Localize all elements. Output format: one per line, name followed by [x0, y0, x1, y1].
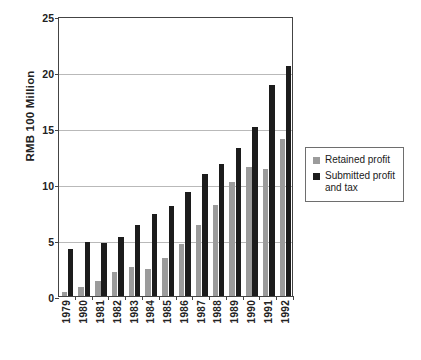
legend-item-submitted-profit-and-tax: Submitted profit and tax — [313, 170, 397, 194]
y-axis-tick-label: 20 — [42, 68, 54, 80]
legend-item-retained-profit: Retained profit — [313, 154, 397, 166]
bar-1980-retained-profit — [78, 287, 83, 296]
x-axis-label-1992: 1992 — [280, 300, 291, 323]
y-axis-tick-label: 10 — [42, 180, 54, 192]
plot-area: 0510152025 — [58, 17, 293, 297]
y-axis-title: RMB 100 Million — [24, 26, 36, 206]
bar-1983-submitted-profit-and-tax — [135, 225, 140, 296]
x-axis-label-1982: 1982 — [112, 300, 123, 323]
bar-chart: RMB 100 Million 0510152025 1979198019811… — [0, 0, 421, 360]
bar-1988-submitted-profit-and-tax — [219, 164, 224, 296]
x-axis-tick-mark — [108, 296, 109, 300]
bar-1989-submitted-profit-and-tax — [236, 148, 241, 296]
legend-swatch-icon-submitted — [313, 173, 320, 180]
x-axis-label-1988: 1988 — [212, 300, 223, 323]
x-axis-tick-mark — [293, 296, 294, 300]
bar-1992-retained-profit — [280, 139, 285, 296]
bar-1985-submitted-profit-and-tax — [169, 206, 174, 296]
bar-1982-retained-profit — [112, 272, 117, 296]
x-axis-label-1983: 1983 — [129, 300, 140, 323]
x-axis-tick-mark — [192, 296, 193, 300]
bar-1984-submitted-profit-and-tax — [152, 214, 157, 296]
x-axis-label-1989: 1989 — [229, 300, 240, 323]
bar-1990-submitted-profit-and-tax — [252, 127, 257, 296]
x-axis-label-1985: 1985 — [162, 300, 173, 323]
x-axis-tick-mark — [159, 296, 160, 300]
bar-1990-retained-profit — [246, 167, 251, 296]
bar-1980-submitted-profit-and-tax — [85, 242, 90, 296]
x-axis-tick-mark — [209, 296, 210, 300]
legend-label-retained: Retained profit — [325, 154, 390, 166]
x-axis-label-1979: 1979 — [61, 300, 72, 323]
legend-swatch-icon-retained — [313, 157, 320, 164]
bar-1987-retained-profit — [196, 225, 201, 296]
bars-layer — [59, 18, 292, 296]
bar-1991-retained-profit — [263, 169, 268, 296]
bar-1986-submitted-profit-and-tax — [185, 192, 190, 296]
x-axis-label-1990: 1990 — [246, 300, 257, 323]
x-axis-label-1984: 1984 — [145, 300, 156, 323]
legend-label-submitted: Submitted profit and tax — [325, 170, 397, 194]
x-axis-tick-mark — [125, 296, 126, 300]
x-axis-tick-mark — [176, 296, 177, 300]
x-axis-tick-mark — [259, 296, 260, 300]
bar-1985-retained-profit — [162, 258, 167, 296]
x-axis-tick-mark — [243, 296, 244, 300]
chart-legend: Retained profit Submitted profit and tax — [305, 147, 404, 202]
bar-1987-submitted-profit-and-tax — [202, 174, 207, 296]
x-axis-tick-mark — [226, 296, 227, 300]
x-axis-tick-mark — [276, 296, 277, 300]
x-axis-tick-mark — [142, 296, 143, 300]
x-axis-tick-mark — [75, 296, 76, 300]
x-axis-label-1991: 1991 — [263, 300, 274, 323]
x-axis-label-1981: 1981 — [95, 300, 106, 323]
y-axis-tick-mark — [55, 298, 59, 299]
x-axis-labels: 1979198019811982198319841985198619871988… — [58, 300, 293, 358]
x-axis-label-1980: 1980 — [78, 300, 89, 323]
bar-1991-submitted-profit-and-tax — [269, 85, 274, 296]
y-axis-tick-label: 5 — [48, 236, 54, 248]
bar-1981-submitted-profit-and-tax — [101, 243, 106, 296]
y-axis-tick-label: 15 — [42, 124, 54, 136]
bar-1986-retained-profit — [179, 244, 184, 296]
x-axis-label-1987: 1987 — [196, 300, 207, 323]
y-axis-tick-label: 25 — [42, 12, 54, 24]
bar-1982-submitted-profit-and-tax — [118, 237, 123, 296]
y-axis-tick-label: 0 — [48, 292, 54, 304]
x-axis-label-1986: 1986 — [179, 300, 190, 323]
bar-1981-retained-profit — [95, 281, 100, 296]
bar-1979-submitted-profit-and-tax — [68, 249, 73, 296]
x-axis-tick-mark — [92, 296, 93, 300]
bar-1979-retained-profit — [62, 292, 67, 296]
bar-1989-retained-profit — [229, 182, 234, 296]
bar-1983-retained-profit — [129, 267, 134, 296]
bar-1988-retained-profit — [213, 205, 218, 296]
bar-1992-submitted-profit-and-tax — [286, 66, 291, 296]
bar-1984-retained-profit — [145, 269, 150, 296]
